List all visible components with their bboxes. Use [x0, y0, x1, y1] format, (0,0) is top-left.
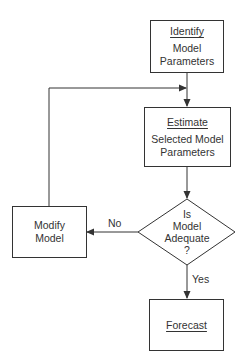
- flowchart: Identify Model Parameters Estimate Selec…: [0, 0, 245, 363]
- forecast-heading: Forecast: [166, 319, 207, 332]
- decision-line1: Is: [183, 208, 191, 220]
- estimate-heading: Estimate: [167, 116, 208, 129]
- no-label: No: [108, 217, 121, 229]
- forecast-box: Forecast: [149, 299, 224, 351]
- modify-line1: Modify: [34, 219, 65, 232]
- identify-line1: Model: [173, 42, 202, 55]
- identify-line2: Parameters: [160, 55, 214, 68]
- identify-heading: Identify: [170, 25, 204, 38]
- decision-line2: Model: [173, 220, 202, 232]
- estimate-box: Estimate Selected Model Parameters: [144, 107, 231, 167]
- identify-box: Identify Model Parameters: [150, 20, 224, 73]
- estimate-line2: Parameters: [160, 146, 214, 159]
- decision-text: Is Model Adequate ?: [147, 205, 227, 259]
- yes-label: Yes: [192, 273, 209, 285]
- modify-box: Modify Model: [12, 206, 87, 258]
- decision-line3: Adequate: [165, 232, 210, 244]
- decision-line4: ?: [184, 244, 190, 256]
- modify-line2: Model: [35, 232, 64, 245]
- estimate-line1: Selected Model: [151, 133, 223, 146]
